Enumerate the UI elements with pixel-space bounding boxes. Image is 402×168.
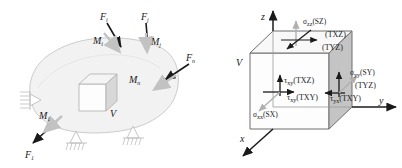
inner-volume-cube [79,74,117,111]
force-F1-label: F1 [24,149,34,161]
right-panel-group: z y x V σzz(SZ) (T [236,11,396,156]
tau-yz-top-label: (TYZ) [322,43,343,52]
axis-x-label: x [239,133,245,144]
moment-Mj-arrow [146,33,147,51]
support-bottom-center [66,131,87,150]
force-Fi-label: Fi [99,11,108,23]
figure-svg: V Fi Mi Fj Mj [0,0,402,168]
axis-y-label: y [378,95,384,106]
cube-volume-label: V [236,57,244,68]
sigma-zz-label: σzz(SZ) [303,17,327,27]
tau-xz-top-label: (TXZ) [325,30,346,39]
force-Fj-label: Fj [140,11,149,23]
moment-Mj-label: Mj [150,36,161,48]
axis-z-label: z [260,11,265,22]
figure-root: V Fi Mi Fj Mj [0,0,402,168]
moment-Mi-label: Mi [92,35,103,47]
tau-yz-right-label: (TYZ) [355,81,376,90]
left-panel-group: V Fi Mi Fj Mj [20,11,195,161]
sigma-yy-label: σyy(SY) [350,68,375,78]
axis-x-line [243,129,273,156]
sigma-xx-label: σxx(SX) [253,110,278,120]
force-Fn-label: Fn [185,52,195,64]
